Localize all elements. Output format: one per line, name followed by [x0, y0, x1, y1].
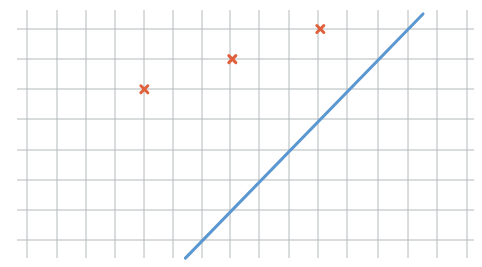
trend-line — [185, 14, 423, 258]
grid-lines — [17, 10, 474, 258]
coordinate-grid-diagram — [0, 0, 482, 267]
blue-line — [185, 14, 423, 258]
